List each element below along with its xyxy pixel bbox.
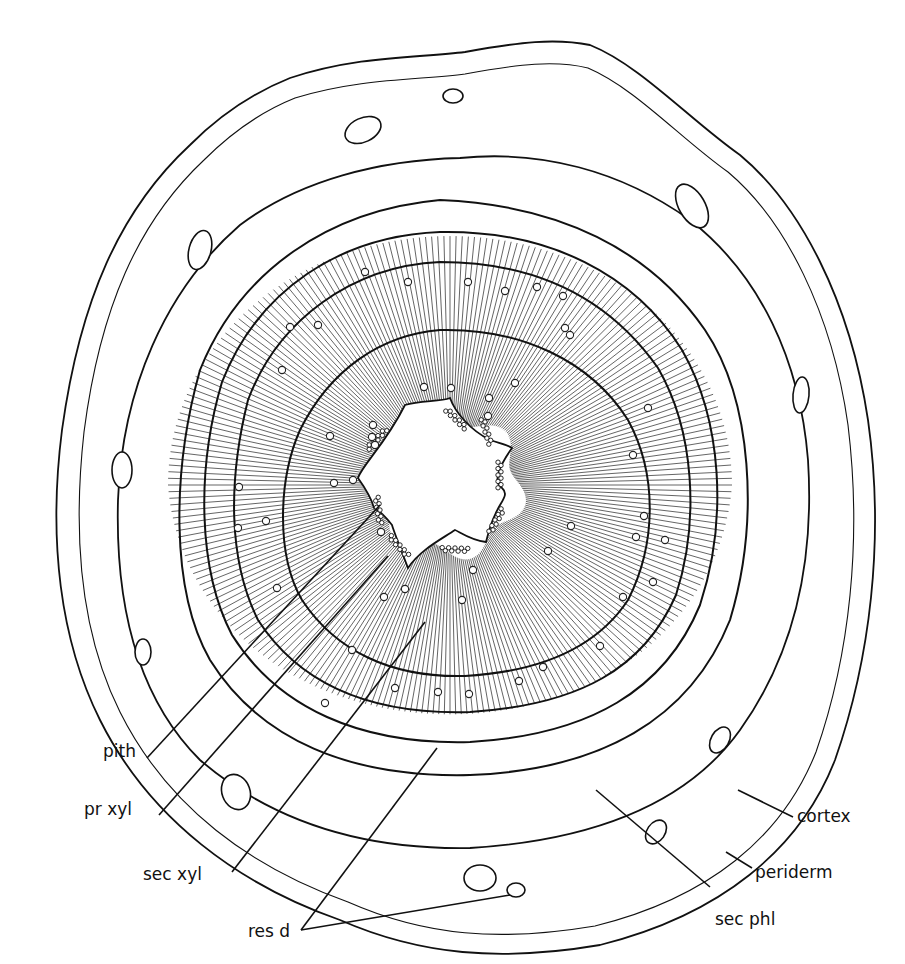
xylem-resin-duct [330, 479, 337, 486]
xylem-resin-duct [539, 663, 546, 670]
xylem-resin-duct [501, 287, 508, 294]
label-periderm: periderm [755, 862, 832, 882]
xylem-ray [511, 333, 675, 444]
label-pith: pith [103, 741, 136, 761]
xylem-ray [365, 543, 427, 704]
xylem-resin-duct [544, 547, 551, 554]
xylem-ray [463, 559, 490, 712]
xylem-ray [507, 306, 647, 434]
label-pr-xyl: pr xyl [84, 799, 132, 819]
xylem-resin-duct [286, 323, 293, 330]
xylem-resin-duct [533, 283, 540, 290]
xylem-resin-duct [349, 476, 356, 483]
primary-xylem-cell [448, 409, 452, 413]
xylem-ray [521, 487, 731, 492]
xylem-ray [193, 382, 380, 457]
primary-xylem-cell [398, 547, 402, 551]
primary-xylem-cell [393, 543, 397, 547]
xylem-ray [510, 359, 694, 454]
xylem-resin-duct [401, 585, 408, 592]
xylem-ray [248, 310, 403, 445]
cortex-resin-duct [184, 228, 216, 272]
primary-xylem-cell [457, 418, 461, 422]
primary-xylem-cell [440, 545, 444, 549]
cortex-resin-duct [341, 111, 386, 149]
cortex-leader [738, 790, 793, 817]
xylem-resin-duct [377, 528, 384, 535]
xylem-resin-duct [447, 384, 454, 391]
xylem-ray [482, 549, 557, 697]
primary-xylem-cell [394, 538, 398, 542]
label-cortex: cortex [797, 806, 851, 826]
primary-xylem-cell [380, 429, 384, 433]
xylem-resin-duct [469, 566, 476, 573]
periderm-leader [726, 852, 752, 868]
xylem-ray [371, 246, 426, 413]
xylem-ray [517, 465, 732, 480]
xylem-ray [170, 490, 383, 505]
xylem-resin-duct [596, 642, 603, 649]
xylem-resin-duct [262, 517, 269, 524]
res-d-leader [301, 748, 437, 930]
xylem-ray [508, 520, 674, 621]
xylem-resin-duct [391, 684, 398, 691]
xylem-resin-duct [273, 584, 280, 591]
xylem-resin-duct [371, 441, 378, 448]
xylem-ray [501, 523, 656, 639]
xylem-ray [230, 328, 398, 447]
xylem-resin-duct [561, 324, 568, 331]
xylem-ray [218, 518, 390, 612]
primary-xylem-cell [402, 552, 406, 556]
xylem-ray [305, 544, 407, 681]
xylem-ray [174, 494, 386, 524]
xylem-ray [496, 527, 638, 656]
xylem-ray [519, 478, 732, 483]
xylem-resin-duct [511, 379, 518, 386]
xylem-ray [514, 518, 686, 607]
xylem-resin-duct [661, 536, 668, 543]
cortex-resin-duct [135, 639, 151, 665]
xylem-resin-duct [464, 278, 471, 285]
xylem-resin-duct [465, 690, 472, 697]
primary-xylem-cell [494, 522, 498, 526]
primary-xylem-cell [385, 429, 389, 433]
xylem-ray [170, 458, 376, 478]
xylem-ray [452, 555, 456, 715]
xylem-ray [510, 365, 698, 456]
xylem-ray [187, 502, 390, 561]
label-res-d: res d [248, 921, 290, 941]
xylem-resin-duct [559, 292, 566, 299]
xylem-ray [168, 478, 379, 483]
primary-xylem-cell [376, 495, 380, 499]
primary-xylem-cell [487, 529, 491, 533]
xylem-resin-duct [644, 404, 651, 411]
xylem-resin-duct [629, 451, 636, 458]
xylem-ray [168, 472, 377, 482]
cortex-resin-duct [443, 89, 463, 103]
primary-xylem-cell [367, 447, 371, 451]
xylem-resin-duct [348, 646, 355, 653]
xylem-ray [329, 259, 416, 422]
xylem-ray [263, 537, 393, 656]
xylem-ray [456, 237, 474, 421]
xylem-resin-duct [458, 596, 465, 603]
xylem-ray [454, 556, 462, 714]
xylem-ray [498, 525, 647, 648]
primary-xylem-cell [457, 422, 461, 426]
pr-xyl-leader [159, 556, 388, 815]
xylem-resin-duct [314, 321, 321, 328]
cortex-resin-duct [669, 179, 716, 234]
xylem-ray [524, 492, 729, 512]
xylem-ray [471, 559, 513, 709]
primary-xylem-cell [402, 548, 406, 552]
primary-xylem-cell [496, 486, 500, 490]
primary-xylem-cell [499, 507, 503, 511]
xylem-resin-duct [321, 699, 328, 706]
xylem-resin-duct [368, 433, 375, 440]
primary-xylem-cell [444, 409, 448, 413]
xylem-resin-duct [326, 432, 333, 439]
xylem-resin-duct [515, 677, 522, 684]
primary-xylem-cell [398, 543, 402, 547]
xylem-resin-duct [420, 383, 427, 390]
xylem-ray [511, 349, 687, 451]
